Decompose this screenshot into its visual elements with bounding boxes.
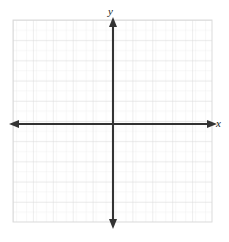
y-axis-label: y — [108, 6, 113, 17]
coordinate-plane-graph — [0, 0, 229, 242]
x-axis-label: x — [216, 118, 221, 129]
